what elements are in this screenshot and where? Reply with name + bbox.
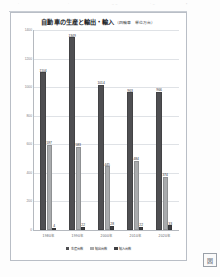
bar-value-label: 963 [127, 89, 133, 93]
top-artifact-strip: ··– –· –▪ [0, 2, 220, 11]
legend-swatch [114, 247, 118, 251]
bar-import[interactable]: 4 [52, 228, 56, 230]
bar-value-label: 22 [81, 223, 85, 227]
bar-group: 966374332020年 [150, 30, 179, 230]
screenshot-page: ··– –· –▪ 自動車の生産と輸出・輸入（四輪車 単位万台） 0200400… [0, 0, 220, 277]
top-artifact: · – [150, 2, 155, 6]
bar-production[interactable]: 1349 [69, 37, 75, 230]
bar-group: 110459741980年 [34, 30, 63, 230]
bar-value-label: 484 [133, 157, 139, 161]
top-artifact: · [68, 2, 69, 6]
legend-swatch [66, 247, 70, 251]
x-axis-tick-label: 1980年 [43, 233, 55, 238]
bar-group: 963484222010年 [121, 30, 150, 230]
legend-label: 輸入台数 [119, 246, 131, 251]
top-artifact: · [18, 2, 19, 6]
bar-production[interactable]: 1104 [40, 72, 46, 230]
bar-production[interactable]: 1014 [98, 85, 104, 230]
y-axis-tick-label: 0 [30, 228, 32, 232]
bar-export[interactable]: 583 [76, 147, 81, 230]
bar-export[interactable]: 445 [105, 166, 110, 230]
bar-import[interactable]: 22 [139, 227, 143, 230]
y-axis-tick-label: 1400 [25, 28, 32, 32]
chart-title-text: 自動車の生産と輸出・輸入 [41, 18, 114, 25]
bar-value-label: 22 [139, 223, 143, 227]
x-axis-tick-label: 1990年 [72, 233, 84, 238]
bar-value-label: 966 [156, 88, 162, 92]
bar-import[interactable]: 22 [81, 227, 85, 230]
bar-value-label: 374 [162, 173, 168, 177]
chart-title-unit: （四輪車 単位万台） [115, 20, 156, 25]
chart-legend: 生産台数輸出台数輸入台数 [11, 246, 186, 251]
bar-production[interactable]: 963 [127, 92, 133, 230]
x-axis-tick-label: 2000年 [101, 233, 113, 238]
top-artifact: – – [112, 2, 118, 6]
x-axis-tick-label: 2010年 [130, 233, 142, 238]
bar-value-label: 445 [104, 163, 110, 167]
bar-value-label: 1104 [40, 69, 47, 73]
legend-item[interactable]: 輸出台数 [90, 246, 107, 251]
legend-item[interactable]: 輸入台数 [114, 246, 131, 251]
bar-groups: 110459741980年1349583221990年1014445282000… [34, 30, 179, 230]
bar-value-label: 583 [75, 143, 81, 147]
bar-export[interactable]: 597 [47, 145, 52, 230]
bar-value-label: 28 [110, 222, 114, 226]
legend-item[interactable]: 生産台数 [66, 246, 83, 251]
bar-group: 1349583221990年 [63, 30, 92, 230]
bar-import[interactable]: 28 [110, 226, 114, 230]
bar-value-label: 33 [168, 222, 172, 226]
bar-value-label: 597 [46, 141, 52, 145]
y-axis-tick-label: 600 [26, 142, 32, 146]
stamp-label: 図 [207, 256, 213, 265]
plot-area: 0200400600800100012001400 110459741980年1… [33, 30, 179, 231]
bar-production[interactable]: 966 [156, 92, 162, 230]
bar-value-label: 4 [53, 224, 55, 228]
bar-import[interactable]: 33 [168, 225, 172, 230]
legend-label: 輸出台数 [95, 246, 107, 251]
bar-value-label: 1349 [68, 34, 75, 38]
chart-frame: 自動車の生産と輸出・輸入（四輪車 単位万台） 02004006008001000… [10, 12, 187, 261]
legend-label: 生産台数 [71, 246, 83, 251]
bar-export[interactable]: 484 [134, 161, 139, 230]
legend-swatch [90, 247, 94, 251]
y-axis-tick-label: 200 [26, 199, 32, 203]
top-artifact: ▪ [186, 2, 188, 6]
bar-export[interactable]: 374 [163, 177, 168, 230]
bar-group: 1014445282000年 [92, 30, 121, 230]
y-axis-tick-label: 400 [26, 171, 32, 175]
corner-stamp-icon: 図 [203, 253, 217, 267]
y-axis-tick-label: 1000 [25, 85, 32, 89]
chart-title: 自動車の生産と輸出・輸入（四輪車 単位万台） [11, 17, 186, 26]
y-axis-tick-label: 800 [26, 114, 32, 118]
bar-value-label: 1014 [97, 81, 104, 85]
x-axis-tick-label: 2020年 [159, 233, 171, 238]
y-axis-tick-label: 1200 [25, 57, 32, 61]
